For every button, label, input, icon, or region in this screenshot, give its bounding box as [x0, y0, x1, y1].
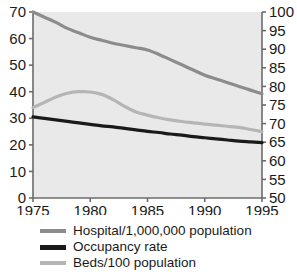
right-axis-tick-label-95: 95 [269, 22, 286, 39]
right-axis-tick-label-70: 70 [269, 115, 286, 132]
legend-swatch-icon [40, 261, 66, 265]
left-axis-tick-label-40: 40 [9, 83, 26, 100]
legend-item[interactable]: Beds/100 population [40, 255, 290, 271]
chart-plot: 0102030405060705055606570758085909510019… [0, 0, 297, 215]
left-axis-tick-label-30: 30 [9, 109, 26, 126]
legend-item[interactable]: Hospital/1,000,000 population [40, 223, 290, 239]
chart-legend: Hospital/1,000,000 populationOccupancy r… [40, 223, 290, 271]
left-axis-tick-label-50: 50 [9, 56, 26, 73]
legend-item[interactable]: Occupancy rate [40, 239, 290, 255]
right-axis-tick-label-80: 80 [269, 78, 286, 95]
x-axis-tick-label-1985: 1985 [131, 202, 164, 216]
plot-background-group [33, 12, 262, 198]
right-axis-tick-label-65: 65 [269, 133, 286, 150]
legend-swatch-icon [40, 229, 66, 233]
legend-item-label: Beds/100 population [73, 255, 196, 271]
legend-item-label: Hospital/1,000,000 population [73, 223, 252, 239]
left-axis-tick-label-60: 60 [9, 30, 26, 47]
left-axis-tick-label-20: 20 [9, 136, 26, 153]
right-axis-tick-label-60: 60 [269, 152, 286, 169]
right-axis-tick-label-85: 85 [269, 59, 286, 76]
chart-container: 0102030405060705055606570758085909510019… [0, 0, 297, 278]
right-axis-tick-label-75: 75 [269, 96, 286, 113]
right-axis-tick-label-100: 100 [269, 3, 294, 20]
plot-background [33, 12, 262, 198]
left-axis-tick-label-10: 10 [9, 163, 26, 180]
x-axis-tick-label-1995: 1995 [245, 202, 278, 216]
right-axis-tick-label-55: 55 [269, 171, 286, 188]
x-axis-tick-label-1980: 1980 [74, 202, 107, 216]
x-axis-tick-label-1975: 1975 [16, 202, 49, 216]
right-axis-tick-label-90: 90 [269, 40, 286, 57]
legend-swatch-icon [40, 245, 66, 250]
left-axis-tick-label-70: 70 [9, 3, 26, 20]
legend-item-label: Occupancy rate [73, 239, 168, 255]
x-axis-tick-label-1990: 1990 [188, 202, 221, 216]
